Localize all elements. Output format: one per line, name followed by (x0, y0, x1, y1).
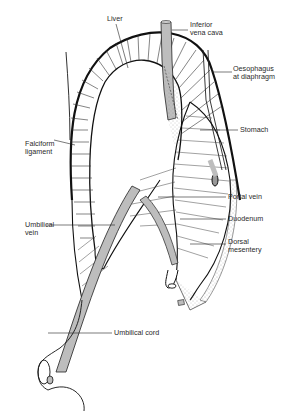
label-oesophagus: Oesophagus at diaphragm (233, 65, 275, 81)
label-stomach: Stomach (240, 126, 268, 134)
label-falciform-ligament: Falciform ligament (25, 140, 55, 156)
umbilical-vein (56, 186, 140, 372)
liver-stomach-embryology-drawing (0, 0, 294, 411)
anatomy-diagram: Liver Inferior vena cava Oesophagus at d… (0, 0, 294, 411)
stomach-outline (190, 102, 231, 300)
label-umbilical-vein: Umbilical vein (25, 221, 54, 237)
label-liver: Liver (107, 15, 123, 23)
label-inferior-vena-cava: Inferior vena cava (190, 21, 223, 37)
label-umbilical-cord: Umbilical cord (114, 329, 159, 337)
body-wall-line (66, 52, 70, 140)
body-wall-lower (48, 387, 84, 411)
label-duodenum: Duodenum (228, 215, 263, 223)
portal-vein (140, 196, 178, 265)
label-dorsal-mesentery: Dorsal mesentery (228, 238, 262, 254)
label-portal-vein: Portal vein (228, 193, 262, 201)
